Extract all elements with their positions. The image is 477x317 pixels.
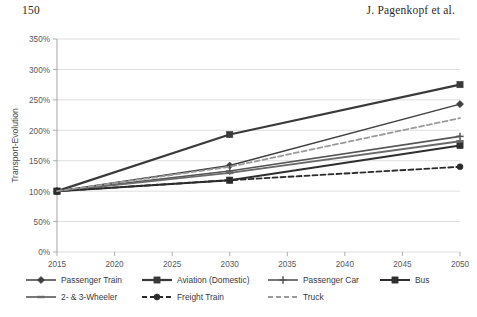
series-aviation-domestic bbox=[54, 82, 463, 195]
marker-circle bbox=[457, 164, 463, 170]
marker-circle bbox=[227, 177, 233, 183]
legend-item[interactable]: Bus bbox=[380, 275, 429, 285]
xtick-label: 2050 bbox=[451, 260, 470, 269]
ytick-label: 150% bbox=[29, 157, 50, 166]
legend-label: Freight Train bbox=[177, 292, 224, 302]
legend-label: Bus bbox=[415, 275, 429, 285]
xtick-label: 2040 bbox=[336, 260, 355, 269]
legend-item[interactable]: Freight Train bbox=[142, 292, 224, 302]
legend-label: Passenger Train bbox=[61, 275, 122, 285]
legend-item[interactable]: Aviation (Domestic) bbox=[142, 275, 250, 285]
legend-item[interactable]: Truck bbox=[268, 292, 324, 302]
legend-item[interactable]: Passenger Train bbox=[26, 275, 122, 285]
xtick-label: 2035 bbox=[278, 260, 297, 269]
marker-square bbox=[457, 82, 463, 88]
marker-diamond bbox=[37, 276, 44, 283]
legend-label: Passenger Car bbox=[303, 275, 359, 285]
xtick-label: 2045 bbox=[393, 260, 412, 269]
ytick-label: 50% bbox=[34, 218, 50, 227]
series-passenger-train bbox=[53, 101, 463, 195]
y-axis-title: Transport-Evolution bbox=[10, 108, 20, 183]
legend-label: Truck bbox=[303, 292, 324, 302]
marker-circle bbox=[154, 294, 160, 300]
line-chart: 0%50%100%150%200%250%300%350%20152020202… bbox=[0, 22, 477, 317]
xtick-label: 2015 bbox=[48, 260, 67, 269]
ytick-label: 300% bbox=[29, 66, 50, 75]
marker-square bbox=[457, 142, 463, 148]
xtick-label: 2020 bbox=[105, 260, 124, 269]
running-head: J. Pagenkopf et al. bbox=[367, 4, 455, 16]
marker-square bbox=[154, 277, 160, 283]
marker-diamond bbox=[456, 101, 463, 108]
legend-label: Aviation (Domestic) bbox=[177, 275, 250, 285]
figure-transport-evolution: 0%50%100%150%200%250%300%350%20152020202… bbox=[0, 22, 477, 317]
ytick-label: 200% bbox=[29, 127, 50, 136]
legend-item[interactable]: Passenger Car bbox=[268, 275, 359, 285]
page-number: 150 bbox=[22, 4, 40, 16]
page-header: 150 J. Pagenkopf et al. bbox=[0, 0, 477, 24]
ytick-label: 350% bbox=[29, 35, 50, 44]
xtick-label: 2025 bbox=[163, 260, 182, 269]
legend-item[interactable]: 2- & 3-Wheeler bbox=[26, 292, 118, 302]
ytick-label: 100% bbox=[29, 188, 50, 197]
marker-square bbox=[227, 131, 233, 137]
ytick-label: 250% bbox=[29, 96, 50, 105]
marker-square bbox=[392, 277, 398, 283]
ytick-label: 0% bbox=[38, 248, 50, 257]
xtick-label: 2030 bbox=[221, 260, 240, 269]
legend-label: 2- & 3-Wheeler bbox=[61, 292, 118, 302]
